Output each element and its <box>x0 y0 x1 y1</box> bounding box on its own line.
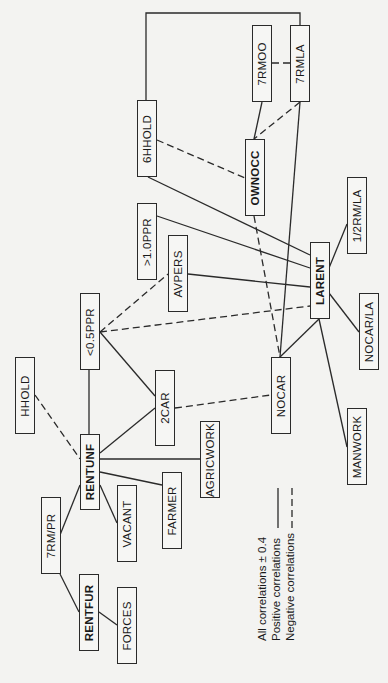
node-box: MANWORK <box>347 408 367 485</box>
node-label: NOCAR <box>275 374 287 417</box>
edge-negative <box>35 395 80 459</box>
node-box: OWNOCC <box>245 139 265 216</box>
node-label: AGRICWORK <box>204 423 216 497</box>
edge-positive <box>188 274 310 287</box>
node-box: 6HHOLD <box>137 100 157 177</box>
node-box: AVPERS <box>168 235 188 312</box>
edge-positive <box>280 102 300 357</box>
edge-positive <box>60 574 79 612</box>
node-label: VACANT <box>121 500 133 547</box>
node-box: <0.5PPR <box>80 293 100 370</box>
node-label: RENTUNF <box>84 444 96 500</box>
edge-negative <box>254 216 280 357</box>
edge-positive <box>319 319 347 447</box>
node-box: FORCES <box>117 587 137 664</box>
node-box: NOCAR/LA <box>359 293 379 370</box>
node-label: MANWORK <box>351 415 363 478</box>
edge-positive <box>60 485 80 535</box>
node-label: >1.0PPR <box>141 218 153 266</box>
node-label: AVPERS <box>172 250 184 297</box>
node-label: RENTFUR <box>83 584 95 640</box>
node-label: HHOLD <box>19 375 31 416</box>
node-label: 7RM/PR <box>45 513 57 558</box>
node-label: FORCES <box>121 601 133 650</box>
legend-negative-label: Negative correlations <box>284 533 296 641</box>
node-box: VACANT <box>117 485 137 562</box>
edge-positive <box>100 332 155 396</box>
edge-positive <box>99 612 117 625</box>
edge-positive <box>100 408 155 453</box>
edge-negative <box>100 306 310 332</box>
node-box: FARMER <box>162 472 182 549</box>
node-label: LARENT <box>314 257 326 305</box>
node-label: 2CAR <box>159 392 171 423</box>
legend-positive-label: Positive correlations <box>270 538 282 641</box>
node-box: LARENT <box>310 242 330 319</box>
node-label: 6HHOLD <box>141 115 153 163</box>
node-box: AGRICWORK <box>200 421 220 498</box>
edge-positive <box>329 224 347 268</box>
node-box: 2CAR <box>155 370 175 446</box>
node-box: HHOLD <box>15 357 35 434</box>
edge-negative <box>100 274 168 332</box>
node-label: 1/2RM/LA <box>351 189 363 242</box>
node-box: RENTUNF <box>80 434 100 510</box>
node-box: NOCAR <box>271 357 291 434</box>
node-box: 7RMOO <box>252 25 272 102</box>
node-label: 7RMOO <box>256 42 268 85</box>
node-box: 7RM/PR <box>41 497 61 574</box>
node-box: RENTFUR <box>79 574 99 651</box>
edge-positive <box>329 293 359 332</box>
node-box: 7RMLA <box>290 25 310 102</box>
node-label: FARMER <box>166 486 178 535</box>
correlation-diagram: 7RMOO7RMLA6HHOLDOWNOCC1/2RM/LA>1.0PPRAVP… <box>0 0 388 683</box>
edge-negative <box>157 140 245 178</box>
edges-layer <box>0 0 388 683</box>
node-label: OWNOCC <box>249 150 261 205</box>
node-box: 1/2RM/LA <box>347 177 367 254</box>
edge-positive <box>280 319 319 357</box>
edge-positive <box>146 13 300 100</box>
node-box: >1.0PPR <box>137 203 157 280</box>
node-label: <0.5PPR <box>84 308 96 356</box>
legend-line-samples <box>270 480 300 530</box>
edge-positive <box>100 485 117 523</box>
edge-negative <box>175 395 271 408</box>
node-label: 7RMLA <box>294 44 306 83</box>
node-label: NOCAR/LA <box>363 301 375 361</box>
edge-positive <box>100 472 162 485</box>
legend-title: All correlations ± 0.4 <box>256 537 268 641</box>
